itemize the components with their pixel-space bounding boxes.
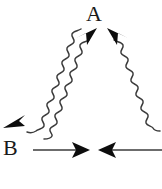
label-a: A (86, 3, 102, 25)
wave-diagram-figure: A B (0, 0, 162, 189)
diagram-canvas (0, 0, 162, 189)
wavy-line-left-outer (27, 29, 81, 133)
arrowhead-apex-right-icon (107, 28, 128, 45)
wavy-line-left-inner (44, 40, 89, 139)
wavy-line-right (114, 40, 160, 131)
arrowhead-lower-left-icon (3, 115, 25, 128)
label-b: B (3, 137, 18, 159)
